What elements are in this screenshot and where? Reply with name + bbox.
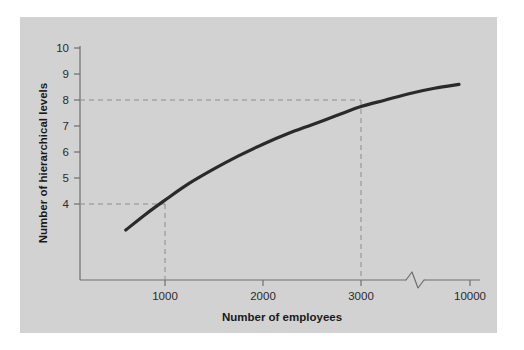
axis-break-icon — [406, 272, 424, 288]
y-tick-label-4: 4 — [63, 198, 70, 210]
y-tick-label-7: 7 — [63, 120, 69, 132]
reference-lines — [80, 100, 361, 280]
chart-plot: 10 9 8 7 6 5 4 1000 2000 3000 10000 Numb… — [0, 0, 524, 350]
x-tick-labels: 1000 2000 3000 10000 — [152, 290, 486, 302]
y-tick-marks — [74, 48, 80, 204]
y-tick-label-10: 10 — [56, 42, 69, 54]
x-tick-label-1000: 1000 — [152, 290, 178, 302]
y-tick-labels: 10 9 8 7 6 5 4 — [56, 42, 69, 210]
x-tick-marks — [165, 280, 470, 286]
x-tick-label-10000: 10000 — [454, 290, 486, 302]
x-tick-label-3000: 3000 — [348, 290, 374, 302]
x-axis-title: Number of employees — [222, 311, 342, 323]
y-tick-label-9: 9 — [63, 68, 69, 80]
data-series-line — [126, 84, 459, 230]
x-tick-label-2000: 2000 — [250, 290, 276, 302]
axis-lines — [80, 46, 480, 288]
y-tick-label-8: 8 — [63, 94, 69, 106]
y-tick-label-5: 5 — [63, 172, 69, 184]
y-axis-title: Number of hierarchical levels — [37, 83, 49, 243]
y-tick-label-6: 6 — [63, 146, 69, 158]
